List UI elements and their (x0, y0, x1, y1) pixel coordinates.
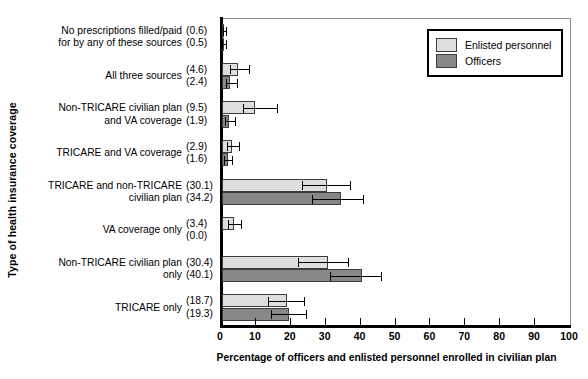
error-bar-cap (235, 117, 236, 126)
x-axis-tick-label: 50 (389, 330, 401, 342)
y-axis-title-text: Type of health insurance coverage (6, 102, 18, 277)
value-label-enlisted: (2.9) (186, 141, 220, 153)
x-axis-tick (325, 318, 326, 325)
category-label: No prescriptions filled/paid for by any … (58, 25, 186, 49)
error-bar-cap (241, 220, 242, 229)
error-bar (330, 276, 381, 277)
error-bar (230, 69, 248, 70)
category-label-row: VA coverage only(3.4)(0.0) (24, 216, 220, 244)
category-label-row: Non-TRICARE civilian plan and VA coverag… (24, 101, 220, 129)
error-bar-cap (363, 195, 364, 204)
category-label-row: TRICARE and non-TRICARE civilian plan(30… (24, 178, 220, 206)
error-bar-cap (298, 258, 299, 267)
legend-swatch-enlisted (436, 38, 457, 52)
value-label-enlisted: (4.6) (186, 64, 220, 76)
y-axis-title: Type of health insurance coverage (0, 0, 24, 379)
category-label: Non-TRICARE civilian plan and VA coverag… (58, 102, 186, 126)
category-label-row: All three sources(4.6)(2.4) (24, 62, 220, 90)
value-label-enlisted: (30.1) (186, 180, 220, 192)
x-axis-tick (464, 318, 465, 325)
error-bar-cap (237, 79, 238, 88)
category-label: TRICARE and VA coverage (56, 147, 186, 159)
category-value-labels: (30.4)(40.1) (186, 257, 220, 281)
category-label-column: No prescriptions filled/paid for by any … (24, 18, 220, 328)
x-axis-tick (499, 318, 500, 325)
category-label: TRICARE only (115, 302, 186, 314)
category-value-labels: (30.1)(34.2) (186, 180, 220, 204)
legend-swatch-officers (436, 54, 457, 68)
chart-legend: Enlisted personnel Officers (427, 29, 563, 77)
error-bar (225, 121, 235, 122)
error-bar-cap (268, 297, 269, 306)
legend-item-enlisted: Enlisted personnel (436, 38, 551, 52)
category-value-labels: (0.6)(0.5) (186, 25, 220, 49)
category-label: VA coverage only (103, 224, 186, 236)
x-axis-title: Percentage of officers and enlisted pers… (211, 352, 562, 363)
error-bar-cap (230, 65, 231, 74)
value-label-enlisted: (0.6) (186, 25, 220, 37)
category-label: Non-TRICARE civilian plan only (58, 257, 186, 281)
error-bar-cap (302, 181, 303, 190)
error-bar-cap (226, 79, 227, 88)
value-label-officers: (1.6) (186, 153, 220, 165)
legend-item-officers: Officers (436, 54, 551, 68)
x-axis-tick (534, 318, 535, 325)
x-axis-tick-label: 70 (458, 330, 470, 342)
error-bar-cap (243, 104, 244, 113)
value-label-enlisted: (3.4) (186, 218, 220, 230)
category-label: All three sources (105, 70, 186, 82)
error-bar (312, 199, 363, 200)
category-label-row: No prescriptions filled/paid for by any … (24, 23, 220, 51)
error-bar-cap (277, 104, 278, 113)
error-bar (224, 160, 232, 161)
error-bar-cap (224, 156, 225, 165)
value-label-enlisted: (9.5) (186, 102, 220, 114)
error-bar (226, 83, 237, 84)
x-axis-tick-label: 20 (284, 330, 296, 342)
x-axis-tick (255, 318, 256, 325)
value-label-enlisted: (30.4) (186, 257, 220, 269)
x-axis-tick-label: 10 (249, 330, 261, 342)
category-label-row: Non-TRICARE civilian plan only(30.4)(40.… (24, 255, 220, 283)
value-label-officers: (40.1) (186, 269, 220, 281)
error-bar-cap (330, 272, 331, 281)
value-label-enlisted: (18.7) (186, 295, 220, 307)
category-label: TRICARE and non-TRICARE civilian plan (48, 180, 186, 204)
x-axis-tick-label: 0 (217, 330, 223, 342)
error-bar-cap (271, 310, 272, 319)
value-label-officers: (0.5) (186, 37, 220, 49)
x-axis-tick-label: 40 (354, 330, 366, 342)
error-bar-cap (350, 181, 351, 190)
error-bar-cap (312, 195, 313, 204)
x-axis-tick-label: 80 (493, 330, 505, 342)
x-axis-tick-label: 30 (319, 330, 331, 342)
error-bar (268, 301, 305, 302)
error-bar-cap (228, 220, 229, 229)
x-axis-tick (429, 318, 430, 325)
category-label-row: TRICARE and VA coverage(2.9)(1.6) (24, 139, 220, 167)
error-bar-cap (381, 272, 382, 281)
bar-chart: Type of health insurance coverage No pre… (0, 0, 588, 379)
category-value-labels: (18.7)(19.3) (186, 295, 220, 319)
error-bar (302, 185, 350, 186)
value-label-officers: (2.4) (186, 76, 220, 88)
value-label-officers: (1.9) (186, 115, 220, 127)
category-value-labels: (3.4)(0.0) (186, 218, 220, 242)
x-axis-tick (290, 318, 291, 325)
error-bar (228, 224, 241, 225)
error-bar-cap (239, 142, 240, 151)
error-bar-cap (223, 27, 224, 36)
x-axis-tick (395, 318, 396, 325)
value-label-officers: (19.3) (186, 308, 220, 320)
x-axis-tick-label: 60 (424, 330, 436, 342)
error-bar-cap (304, 297, 305, 306)
category-value-labels: (4.6)(2.4) (186, 64, 220, 88)
error-bar-cap (306, 310, 307, 319)
error-bar-cap (348, 258, 349, 267)
error-bar-cap (249, 65, 250, 74)
error-bar (298, 262, 348, 263)
error-bar (227, 146, 239, 147)
error-bar-cap (225, 117, 226, 126)
error-bar-cap (227, 142, 228, 151)
x-axis-tick (360, 318, 361, 325)
